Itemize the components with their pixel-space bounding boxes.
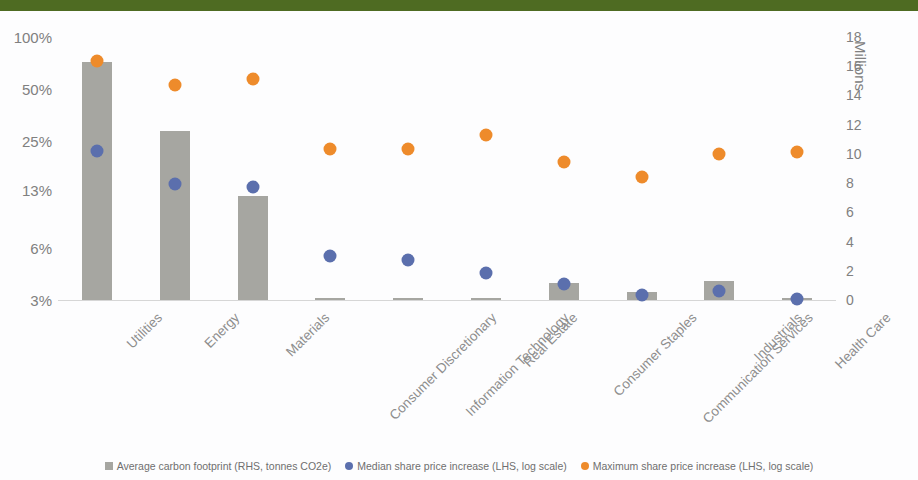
right-axis-tick: 10 — [846, 146, 886, 162]
left-axis-tick: 50% — [0, 80, 52, 97]
header-color-band — [0, 0, 918, 11]
median-marker-industrials — [713, 284, 726, 297]
maximum-marker-materials — [246, 73, 259, 86]
right-axis-tick: 4 — [846, 234, 886, 250]
x-axis-line — [58, 300, 836, 301]
left-axis-tick: 3% — [0, 292, 52, 309]
plot-area: 100%50%25%13%6%3%181614121086420Utilitie… — [0, 11, 918, 480]
maximum-marker-real-estate — [479, 129, 492, 142]
median-marker-utilities — [90, 144, 103, 157]
maximum-marker-utilities — [90, 54, 103, 67]
right-axis-tick: 6 — [846, 204, 886, 220]
x-axis-label-utilities: Utilities — [124, 310, 165, 351]
chart-legend: Average carbon footprint (RHS, tonnes CO… — [0, 460, 918, 472]
median-marker-consumer-discretionary — [324, 249, 337, 262]
legend-item: Average carbon footprint (RHS, tonnes CO… — [105, 460, 332, 472]
right-axis-tick: 2 — [846, 263, 886, 279]
median-marker-real-estate — [479, 266, 492, 279]
maximum-marker-industrials — [713, 148, 726, 161]
bar-consumer-discretionary — [315, 298, 345, 300]
median-marker-consumer-staples — [557, 278, 570, 291]
right-axis-title: Millions — [852, 41, 869, 91]
maximum-marker-communication-services — [635, 170, 648, 183]
maximum-marker-consumer-staples — [557, 155, 570, 168]
median-marker-communication-services — [635, 289, 648, 302]
legend-label: Median share price increase (LHS, log sc… — [357, 460, 567, 472]
legend-label: Average carbon footprint (RHS, tonnes CO… — [117, 460, 332, 472]
circle-marker-icon — [345, 462, 353, 470]
legend-label: Maximum share price increase (LHS, log s… — [593, 460, 814, 472]
bar-information-technology — [393, 298, 423, 300]
maximum-marker-consumer-discretionary — [324, 142, 337, 155]
square-marker-icon — [105, 462, 113, 470]
bar-energy — [160, 131, 190, 300]
left-axis-tick: 25% — [0, 132, 52, 149]
median-marker-materials — [246, 181, 259, 194]
maximum-marker-health-care — [791, 146, 804, 159]
bar-materials — [238, 196, 268, 300]
circle-marker-icon — [581, 462, 589, 470]
median-marker-energy — [168, 178, 181, 191]
x-axis-label-consumer-staples: Consumer Staples — [610, 310, 699, 399]
right-axis-tick: 8 — [846, 175, 886, 191]
median-marker-health-care — [791, 292, 804, 305]
x-axis-label-materials: Materials — [283, 310, 332, 359]
left-axis-tick: 6% — [0, 240, 52, 257]
bar-real-estate — [471, 298, 501, 300]
median-marker-information-technology — [402, 254, 415, 267]
right-axis-tick: 0 — [846, 292, 886, 308]
legend-item: Maximum share price increase (LHS, log s… — [581, 460, 814, 472]
maximum-marker-energy — [168, 78, 181, 91]
right-axis-tick: 12 — [846, 117, 886, 133]
chart-container: 100%50%25%13%6%3%181614121086420Utilitie… — [0, 11, 918, 480]
maximum-marker-information-technology — [402, 142, 415, 155]
x-axis-label-health-care: Health Care — [832, 310, 894, 372]
bar-utilities — [82, 62, 112, 300]
legend-item: Median share price increase (LHS, log sc… — [345, 460, 567, 472]
left-axis-tick: 100% — [0, 29, 52, 46]
x-axis-label-real-estate: Real Estate — [520, 310, 580, 370]
x-axis-label-energy: Energy — [201, 310, 242, 351]
left-axis-tick: 13% — [0, 182, 52, 199]
